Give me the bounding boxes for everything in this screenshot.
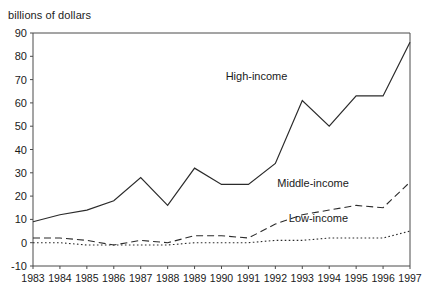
y-tick-label: 0 xyxy=(21,237,27,249)
x-tick-label: 1992 xyxy=(264,272,288,284)
series-label-middle-income: Middle-income xyxy=(277,177,349,189)
x-tick-label: 1988 xyxy=(156,272,180,284)
y-tick-label: 80 xyxy=(15,50,27,62)
y-tick-label: 30 xyxy=(15,167,27,179)
x-tick-label: 1989 xyxy=(183,272,207,284)
series-label-low-income: Low-income xyxy=(289,212,348,224)
x-tick-label: 1997 xyxy=(398,272,422,284)
plot-frame xyxy=(33,33,410,266)
y-tick-label: 60 xyxy=(15,97,27,109)
line-chart: 9080706050403020100-10198319841985198619… xyxy=(0,0,435,291)
y-tick-label: -10 xyxy=(11,260,27,272)
x-tick-label: 1983 xyxy=(21,272,45,284)
x-tick-label: 1987 xyxy=(129,272,153,284)
y-tick-label: 20 xyxy=(15,190,27,202)
y-tick-label: 50 xyxy=(15,120,27,132)
x-tick-label: 1996 xyxy=(371,272,395,284)
x-tick-label: 1986 xyxy=(102,272,126,284)
series-label-high-income: High-income xyxy=(226,70,288,82)
x-tick-label: 1995 xyxy=(344,272,368,284)
x-tick-label: 1984 xyxy=(48,272,72,284)
x-tick-label: 1990 xyxy=(210,272,234,284)
y-tick-label: 70 xyxy=(15,74,27,86)
x-tick-label: 1994 xyxy=(318,272,342,284)
x-tick-label: 1985 xyxy=(75,272,99,284)
chart-page: billions of dollars 9080706050403020100-… xyxy=(0,0,435,291)
x-tick-label: 1993 xyxy=(291,272,315,284)
y-tick-label: 90 xyxy=(15,27,27,39)
series-line-middle-income xyxy=(33,182,410,245)
y-tick-label: 40 xyxy=(15,144,27,156)
series-line-low-income xyxy=(33,231,410,245)
series-line-high-income xyxy=(33,42,410,221)
x-tick-label: 1991 xyxy=(237,272,261,284)
y-tick-label: 10 xyxy=(15,213,27,225)
